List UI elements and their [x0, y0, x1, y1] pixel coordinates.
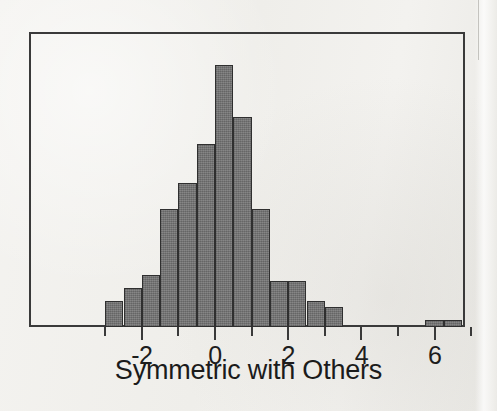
- x-tick-2: [287, 327, 289, 340]
- bar-bin-3.0: [325, 307, 343, 327]
- bar-bin-1.0: [252, 209, 270, 327]
- bar-bin--3.0: [105, 301, 123, 327]
- bar-bin-0.0: [215, 65, 233, 327]
- histogram-figure: -20246 Symmetric with Others: [0, 0, 497, 411]
- x-tick--1: [177, 327, 179, 336]
- bar-bin-2.0: [288, 281, 306, 327]
- x-tick-6: [434, 327, 436, 340]
- bar-bin-2.5: [307, 301, 325, 327]
- x-tick-4: [360, 327, 362, 340]
- x-axis-label: Symmetric with Others: [0, 355, 497, 386]
- bar-bin-5.75: [425, 320, 443, 327]
- x-tick-5: [397, 327, 399, 336]
- bar-bin--0.5: [197, 144, 215, 327]
- x-tick-0: [214, 327, 216, 340]
- bar-bin-1.5: [270, 281, 288, 327]
- bar-bin-0.5: [233, 117, 251, 327]
- bar-bin--2.5: [124, 288, 142, 327]
- x-tick--3: [104, 327, 106, 336]
- x-tick-1: [251, 327, 253, 336]
- bar-bin--1.0: [178, 183, 196, 327]
- x-tick--2: [141, 327, 143, 340]
- x-tick-3: [324, 327, 326, 336]
- bar-bin--2.0: [142, 275, 160, 327]
- bar-bin-6.25: [444, 320, 462, 327]
- x-tick-7: [470, 327, 472, 336]
- bar-bin--1.5: [160, 209, 178, 327]
